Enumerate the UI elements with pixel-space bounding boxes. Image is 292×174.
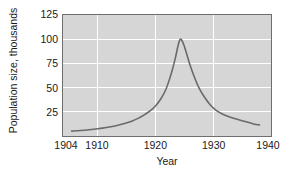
x-tick-label: 1920	[144, 139, 167, 151]
data-line-population-size	[72, 39, 260, 131]
gridlines	[63, 15, 271, 136]
y-tick-label: 25	[24, 107, 58, 117]
y-axis-label: Population size, thousands	[4, 2, 22, 139]
plot-area	[62, 14, 272, 137]
x-tick-label: 1930	[202, 139, 225, 151]
y-tick-label: 100	[24, 34, 58, 44]
plot-svg	[63, 15, 271, 136]
x-tick-label: 1904	[54, 139, 77, 151]
x-axis-label: Year	[62, 155, 272, 167]
x-tick-label: 1940	[256, 139, 279, 151]
x-tick-label: 1910	[85, 139, 108, 151]
y-tick-label: 125	[24, 9, 58, 19]
y-tick-label: 50	[24, 83, 58, 93]
y-tick-label: 75	[24, 58, 58, 68]
y-axis-tick-labels: 255075100125	[22, 14, 58, 137]
data-series-group	[72, 39, 260, 131]
chart-figure: Population size, thousands 255075100125 …	[0, 0, 292, 174]
x-axis-tick-labels: 19041910192019301940	[62, 139, 272, 153]
